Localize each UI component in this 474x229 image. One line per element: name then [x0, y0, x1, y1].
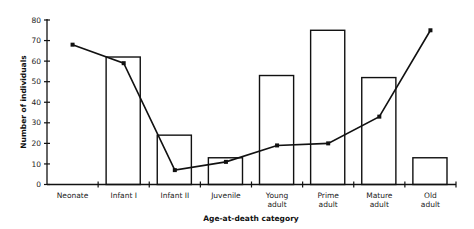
x-axis-title: Age-at-death category — [203, 214, 299, 223]
x-category-label: Oldadult — [421, 191, 440, 209]
x-category-label: Infant I — [110, 191, 137, 200]
y-tick-label: 20 — [31, 139, 41, 148]
y-tick-label: 60 — [31, 57, 41, 66]
y-axis: 01020304050607080 — [31, 16, 50, 190]
y-tick-label: 10 — [31, 160, 41, 169]
x-axis: NeonateInfant IInfant IIJuvenileYoungadu… — [47, 182, 456, 210]
line-marker — [377, 115, 381, 119]
y-tick-label: 30 — [31, 118, 41, 127]
y-axis-title: Number of individuals — [19, 55, 28, 149]
line-marker — [122, 61, 126, 65]
y-tick-label: 40 — [31, 98, 41, 107]
x-category-label: Infant II — [160, 191, 189, 200]
x-category-label: Matureadult — [366, 191, 393, 209]
bar — [260, 76, 294, 185]
y-tick-label: 70 — [31, 36, 41, 45]
y-tick-label: 80 — [31, 16, 41, 25]
x-category-label: Youngadult — [265, 191, 289, 209]
line-marker — [173, 168, 177, 172]
plot-area — [71, 28, 447, 184]
line-marker — [326, 141, 330, 145]
x-category-label: Primeadult — [317, 191, 339, 209]
line-marker — [275, 143, 279, 147]
bar — [362, 78, 396, 185]
line-marker — [71, 43, 75, 47]
line-marker — [224, 160, 228, 164]
y-tick-label: 50 — [31, 77, 41, 86]
bar — [413, 158, 447, 185]
bar — [311, 30, 345, 184]
x-category-label: Juvenile — [210, 191, 241, 200]
chart: 01020304050607080 NeonateInfant IInfant … — [0, 0, 474, 229]
bar — [106, 57, 140, 184]
line-marker — [428, 28, 432, 32]
y-tick-label: 0 — [36, 180, 41, 189]
x-category-label: Neonate — [57, 191, 89, 200]
